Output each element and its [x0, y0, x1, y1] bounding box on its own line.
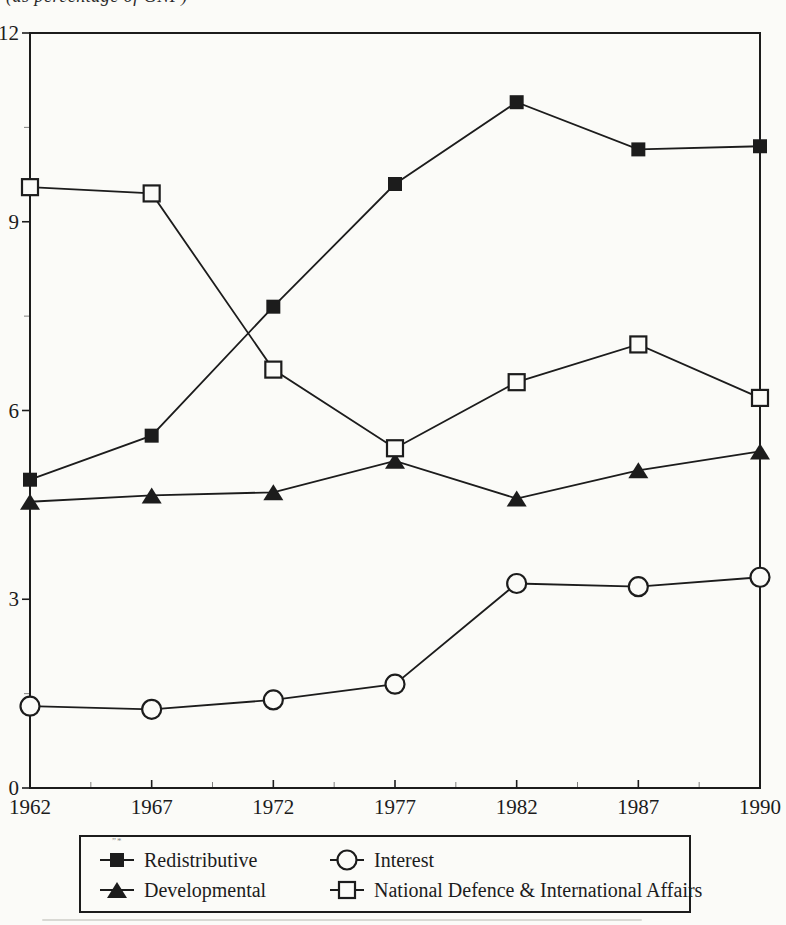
data-point-marker-filled-triangle	[750, 443, 770, 459]
data-point-marker-open-square	[144, 185, 160, 201]
legend-label: Developmental	[144, 879, 267, 902]
data-point-marker-open-square	[265, 362, 281, 378]
x-axis-tick-label: 1967	[131, 795, 173, 819]
data-point-marker-open-square	[630, 336, 646, 352]
legend-entry: Developmental	[100, 879, 267, 902]
x-axis-tick-label: 1962	[9, 795, 51, 819]
data-point-marker-open-circle	[507, 574, 526, 593]
y-axis-tick-label: 3	[9, 587, 20, 611]
legend-label: National Defence & International Affairs	[374, 879, 703, 901]
data-point-marker-open-square	[509, 374, 525, 390]
data-point-marker-open-circle	[629, 577, 648, 596]
legend-label: Redistributive	[144, 849, 257, 871]
series-redistributive	[23, 95, 767, 487]
data-point-marker-filled-square	[266, 300, 280, 314]
legend-entry: National Defence & International Affairs	[330, 879, 703, 901]
series-line-national-defence-international-affairs	[30, 187, 760, 448]
data-point-marker-filled-square	[510, 95, 524, 109]
data-point-marker-filled-triangle	[628, 462, 648, 478]
x-axis-tick-label: 1987	[617, 795, 659, 819]
legend: RedistributiveInterestDevelopmentalNatio…	[80, 836, 703, 912]
legend-entry: Redistributive	[100, 849, 257, 871]
legend-entry: Interest	[330, 849, 434, 871]
series-line-redistributive	[30, 102, 760, 480]
series-interest	[21, 568, 770, 719]
line-chart: 0369121962196719721977198219871990Redist…	[0, 0, 786, 925]
data-point-marker-filled-square	[388, 177, 402, 191]
series-national-defence-international-affairs	[22, 179, 768, 456]
data-point-marker-filled-square	[145, 429, 159, 443]
data-point-marker-open-circle	[21, 697, 40, 716]
data-point-marker-filled-square	[631, 142, 645, 156]
data-point-marker-open-square	[339, 882, 355, 898]
legend-label: Interest	[374, 849, 434, 871]
data-point-marker-open-square	[387, 440, 403, 456]
figure-page: (as percentage of GNP) 03691219621967197…	[0, 0, 786, 925]
data-point-marker-open-circle	[751, 568, 770, 587]
data-point-marker-filled-triangle	[507, 491, 527, 507]
y-axis-tick-label: 6	[9, 399, 20, 423]
data-point-marker-open-circle	[386, 675, 405, 694]
data-point-marker-filled-square	[753, 139, 767, 153]
scan-artifact	[42, 919, 642, 921]
x-axis-tick-label: 1977	[374, 795, 416, 819]
data-point-marker-open-square	[22, 179, 38, 195]
data-point-marker-open-square	[752, 390, 768, 406]
y-axis-tick-label: 12	[0, 21, 19, 45]
data-point-marker-filled-square	[110, 853, 124, 867]
x-axis-tick-label: 1982	[496, 795, 538, 819]
x-axis-tick-label: 1990	[739, 795, 781, 819]
data-point-marker-filled-square	[23, 473, 37, 487]
y-axis-tick-label: 9	[9, 210, 20, 234]
data-point-marker-open-circle	[142, 700, 161, 719]
x-axis-tick-label: 1972	[252, 795, 294, 819]
scan-noise-mark: ”*	[112, 836, 123, 846]
data-point-marker-open-circle	[264, 690, 283, 709]
data-point-marker-open-circle	[338, 851, 357, 870]
